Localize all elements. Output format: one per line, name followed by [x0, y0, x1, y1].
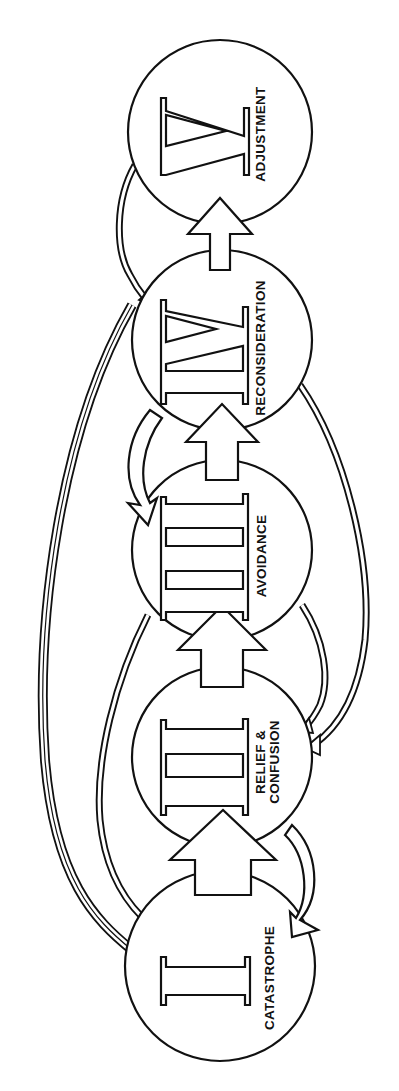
return-arrow-ii-to-i — [285, 825, 318, 937]
return-arrow-iii-to-ii — [300, 605, 325, 733]
stage-label-iv: RECONSIDERATION — [253, 280, 268, 416]
stage-label-iii: AVOIDANCE — [254, 515, 269, 598]
stage-cycle-diagram: ADJUSTMENT RECONSIDERATION AVOIDANCE REL… — [0, 0, 399, 1091]
return-arrow-iv-to-i — [43, 305, 145, 960]
numeral-iii — [161, 494, 248, 620]
stage-label-ii-line1: RELIEF & — [253, 730, 268, 794]
stage-label-v: ADJUSTMENT — [253, 86, 268, 182]
stage-label-ii-line2: CONFUSION — [267, 720, 282, 804]
stage-label-i: CATASTROPHE — [262, 926, 277, 1030]
